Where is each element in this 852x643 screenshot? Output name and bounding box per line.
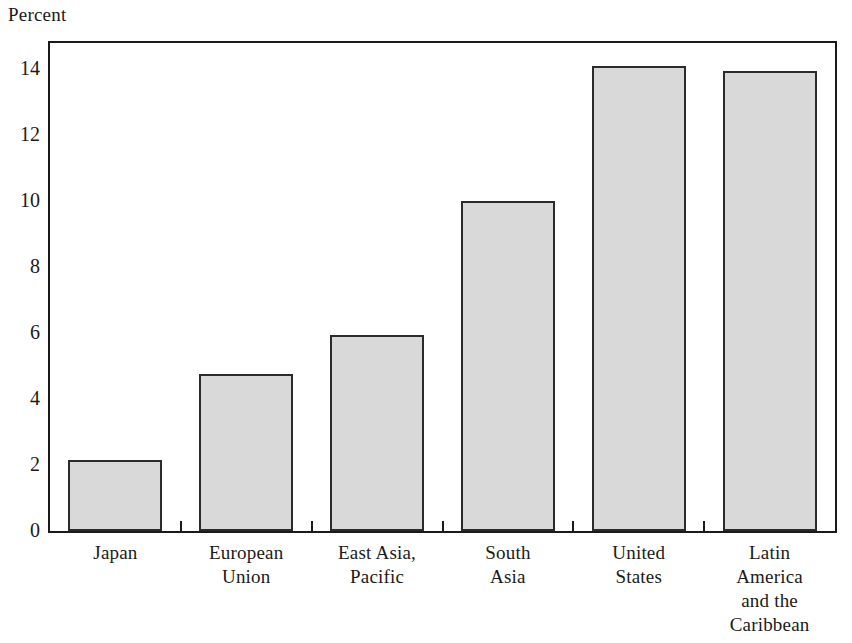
- x-axis-category-label-0: Japan: [50, 541, 181, 565]
- y-axis-tick-label-2: 2: [0, 454, 40, 474]
- plot-area: [48, 41, 837, 533]
- x-axis-category-label-5: LatinAmericaand theCaribbean: [704, 541, 835, 637]
- x-axis-category-label-4: UnitedStates: [573, 541, 704, 589]
- y-axis-tick-label-8: 8: [0, 256, 40, 276]
- x-axis-label-line: States: [573, 565, 704, 589]
- bar-1: [199, 374, 293, 531]
- y-axis-tick-label-14: 14: [0, 58, 40, 78]
- x-axis-label-line: East Asia,: [312, 541, 443, 565]
- x-axis-label-line: Latin: [704, 541, 835, 565]
- x-axis-label-line: United: [573, 541, 704, 565]
- x-axis-separator-0: [180, 521, 182, 531]
- x-axis-label-line: European: [181, 541, 312, 565]
- bar-5: [723, 71, 817, 531]
- x-axis-label-line: and the: [704, 589, 835, 613]
- x-axis-separator-2: [442, 521, 444, 531]
- bar-3: [461, 201, 555, 531]
- bar-chart-figure: Percent 02468101214 JapanEuropeanUnionEa…: [0, 0, 852, 643]
- x-axis-label-line: America: [704, 565, 835, 589]
- y-axis-tick-label-12: 12: [0, 124, 40, 144]
- y-axis-unit-label: Percent: [8, 4, 66, 26]
- x-axis-category-label-2: East Asia,Pacific: [312, 541, 443, 589]
- y-axis-tick-label-6: 6: [0, 322, 40, 342]
- x-axis-label-line: Caribbean: [704, 613, 835, 637]
- y-axis-tick-label-4: 4: [0, 388, 40, 408]
- x-axis-category-label-1: EuropeanUnion: [181, 541, 312, 589]
- x-axis-separator-4: [703, 521, 705, 531]
- x-axis-label-line: Union: [181, 565, 312, 589]
- bars-layer: [50, 43, 835, 531]
- x-axis-category-label-3: SouthAsia: [443, 541, 574, 589]
- x-axis-label-line: Japan: [50, 541, 181, 565]
- bar-2: [330, 335, 424, 531]
- x-axis-label-line: South: [443, 541, 574, 565]
- x-axis-label-line: Asia: [443, 565, 574, 589]
- y-axis-tick-label-10: 10: [0, 190, 40, 210]
- bar-0: [68, 460, 162, 531]
- bar-4: [592, 66, 686, 531]
- x-axis-label-line: Pacific: [312, 565, 443, 589]
- y-axis-tick-label-0: 0: [0, 520, 40, 540]
- x-axis-separator-3: [572, 521, 574, 531]
- x-axis-separator-1: [311, 521, 313, 531]
